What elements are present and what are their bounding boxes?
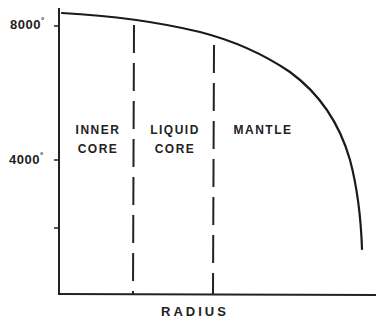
- y-tick-4000-value: 4000: [9, 152, 40, 167]
- liquid-core-line2: CORE: [143, 142, 207, 156]
- y-tick-8000-value: 8000: [10, 17, 41, 32]
- liquid-core-line1: LIQUID: [143, 123, 207, 137]
- region-label-mantle: MANTLE: [233, 123, 293, 137]
- inner-core-line1: INNER: [68, 123, 128, 137]
- boundary-inner-liquid: [133, 25, 134, 294]
- boundary-liquid-mantle: [213, 45, 214, 294]
- y-tick-label-8000: 8000°: [10, 17, 45, 32]
- x-axis: [58, 294, 376, 295]
- chart-canvas: [0, 0, 383, 330]
- y-tick-label-4000: 4000°: [9, 152, 44, 167]
- mantle-line1: MANTLE: [233, 123, 293, 137]
- region-label-inner-core: INNER CORE: [68, 123, 128, 156]
- degree-symbol: °: [40, 151, 44, 160]
- x-axis-label: RADIUS: [150, 304, 240, 319]
- degree-symbol: °: [41, 16, 45, 25]
- inner-core-line2: CORE: [68, 142, 128, 156]
- region-label-liquid-core: LIQUID CORE: [143, 123, 207, 156]
